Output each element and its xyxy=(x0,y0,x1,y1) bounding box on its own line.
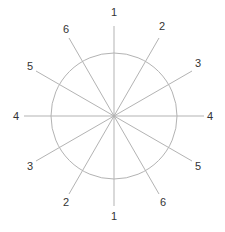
line-label-4-end: 4 xyxy=(13,110,19,122)
line-label-3-start: 3 xyxy=(195,57,201,69)
line-label-5-end: 5 xyxy=(195,160,201,172)
line-label-4-start: 4 xyxy=(207,110,213,122)
center-point xyxy=(113,115,116,118)
radial-line-diagram: 112233445566 xyxy=(0,0,225,232)
line-label-6-start: 6 xyxy=(63,23,69,35)
line-label-1-start: 1 xyxy=(111,6,117,18)
line-label-3-end: 3 xyxy=(27,160,33,172)
line-label-5-start: 5 xyxy=(27,60,33,72)
line-label-2-end: 2 xyxy=(63,196,69,208)
line-label-1-end: 1 xyxy=(111,210,117,222)
line-label-6-end: 6 xyxy=(160,196,166,208)
line-label-2-start: 2 xyxy=(159,20,165,32)
